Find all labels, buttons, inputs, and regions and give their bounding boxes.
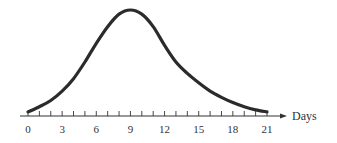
- chart-canvas: 036912151821 Days: [0, 0, 337, 143]
- x-tick-label: 15: [193, 123, 205, 135]
- data-curve: [28, 10, 267, 112]
- x-axis-title: Days: [292, 109, 317, 123]
- x-tick-label: 18: [227, 123, 239, 135]
- x-tick-label: 12: [159, 123, 170, 135]
- x-tick-label: 9: [128, 123, 134, 135]
- chart: 036912151821 Days: [0, 0, 337, 143]
- x-tick-label: 21: [262, 123, 273, 135]
- curve-line: [28, 10, 267, 112]
- x-tick-label: 0: [25, 123, 31, 135]
- x-tick-label: 3: [59, 123, 65, 135]
- x-axis-tick-labels: 036912151821: [25, 123, 272, 135]
- x-tick-label: 6: [94, 123, 100, 135]
- x-axis: 036912151821 Days: [20, 109, 317, 135]
- x-axis-arrow-icon: [280, 114, 287, 119]
- x-axis-ticks: [28, 111, 267, 116]
